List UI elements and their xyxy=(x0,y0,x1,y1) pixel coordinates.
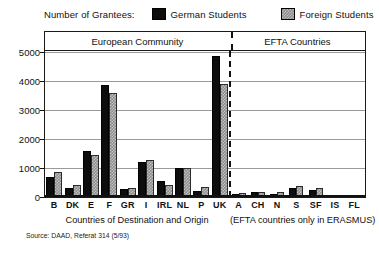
bar-group xyxy=(100,52,118,197)
plot-divider-line xyxy=(229,51,231,197)
y-tick-label: 2000 xyxy=(0,134,40,145)
source-note: Source: DAAD, Referat 314 (5/93) xyxy=(26,232,129,239)
bar-group xyxy=(119,52,137,197)
legend-label-foreign: Foreign Students xyxy=(300,9,374,20)
bar-foreign-students xyxy=(183,168,191,197)
x-tick-label: CH xyxy=(248,200,267,212)
group-header-efta: EFTA Countries xyxy=(230,32,365,50)
x-tick-label: UK xyxy=(211,200,229,212)
x-tick-label: F xyxy=(100,200,118,212)
chart-root: Number of Grantees: German Students Fore… xyxy=(0,0,379,254)
x-tick-label: I xyxy=(137,200,155,212)
x-tick-label: B xyxy=(45,200,63,212)
bar-foreign-students xyxy=(91,155,99,197)
hatched-square-icon xyxy=(281,8,295,20)
bar-group xyxy=(45,52,63,197)
bar-group xyxy=(306,52,325,197)
bar-german-students xyxy=(83,151,91,197)
y-tick-label: 5000 xyxy=(0,47,40,58)
axis-baseline xyxy=(45,195,365,197)
bar-foreign-students xyxy=(146,160,154,197)
bar-group xyxy=(211,52,229,197)
bar-foreign-students xyxy=(220,84,228,197)
bar-german-students xyxy=(175,168,183,197)
y-tick-label: 3000 xyxy=(0,105,40,116)
bar-group xyxy=(174,52,192,197)
bar-group xyxy=(345,52,364,197)
x-tick-label: E xyxy=(82,200,100,212)
bar-german-students xyxy=(101,85,109,197)
group-header-ec: European Community xyxy=(45,32,230,50)
bar-group xyxy=(155,52,173,197)
chart-legend: Number of Grantees: German Students Fore… xyxy=(44,8,374,20)
bar-german-students xyxy=(46,177,54,197)
legend-entry-german: German Students xyxy=(152,8,247,20)
x-tick-label: FL xyxy=(345,200,364,212)
caption-ec: Countries of Destination and Origin xyxy=(44,215,230,225)
y-axis: 010002000300040005000 xyxy=(0,51,40,198)
bar-group xyxy=(229,52,248,197)
bar-german-students xyxy=(138,162,146,197)
legend-entry-foreign: Foreign Students xyxy=(281,8,374,20)
x-tick-label: NL xyxy=(174,200,192,212)
y-tick-label: 1000 xyxy=(0,163,40,174)
bar-group xyxy=(137,52,155,197)
x-tick-label: IRL xyxy=(155,200,173,212)
x-tick-label: N xyxy=(267,200,286,212)
x-tick-label: SF xyxy=(306,200,325,212)
y-tick-label: 4000 xyxy=(0,76,40,87)
bar-group xyxy=(267,52,286,197)
legend-title: Number of Grantees: xyxy=(44,9,135,20)
bar-group xyxy=(192,52,210,197)
bar-series-container xyxy=(45,52,364,197)
legend-label-german: German Students xyxy=(171,9,247,20)
bar-foreign-students xyxy=(109,93,117,197)
bar-group xyxy=(325,52,344,197)
filled-square-icon xyxy=(152,8,166,20)
group-header-band: European Community EFTA Countries xyxy=(44,31,366,51)
x-tick-label: P xyxy=(192,200,210,212)
bar-foreign-students xyxy=(54,172,62,197)
caption-efta: (EFTA countries only in ERASMUS) xyxy=(230,215,366,225)
x-tick-label: A xyxy=(229,200,248,212)
y-tick-label: 0 xyxy=(0,192,40,203)
bar-group xyxy=(248,52,267,197)
x-tick-label: GR xyxy=(119,200,137,212)
bar-group xyxy=(82,52,100,197)
x-tick-label: IS xyxy=(325,200,344,212)
group-divider-line xyxy=(231,32,233,50)
bar-group xyxy=(287,52,306,197)
x-axis: BDKEFGRIIRLNLPUKACHNSSFISFL xyxy=(45,200,364,212)
bar-german-students xyxy=(212,56,220,197)
x-tick-label: DK xyxy=(63,200,81,212)
x-tick-label: S xyxy=(287,200,306,212)
bar-group xyxy=(63,52,81,197)
